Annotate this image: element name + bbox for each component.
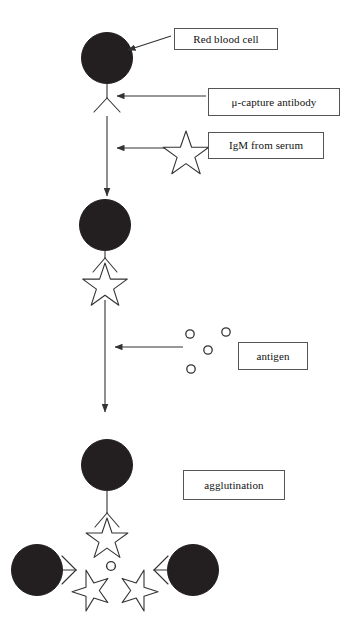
- capture-antibody: [154, 556, 168, 584]
- label-igm-from-serum: IgM from serum: [208, 132, 324, 159]
- red-blood-cell: [80, 200, 131, 251]
- figure-root: Red blood cell μ-capture antibody IgM fr…: [0, 0, 352, 621]
- red-blood-cell: [12, 545, 63, 596]
- stage-2-group: [80, 200, 184, 413]
- label-agglutination: agglutination: [183, 470, 285, 500]
- red-blood-cell: [82, 33, 133, 84]
- label-capture-antibody: μ-capture antibody: [208, 88, 340, 116]
- antigen-pool: [186, 328, 230, 373]
- label-igm-from-serum-text: IgM from serum: [229, 139, 303, 151]
- label-red-blood-cell-text: Red blood cell: [193, 33, 259, 45]
- igm-star-left: [72, 570, 108, 611]
- label-antigen-text: antigen: [256, 350, 289, 362]
- red-blood-cell: [82, 440, 133, 491]
- label-agglutination-text: agglutination: [204, 479, 263, 491]
- antigen-particle-crosslink: [107, 562, 116, 571]
- igm-star-bound: [83, 263, 128, 305]
- label-antigen: antigen: [238, 342, 308, 370]
- igm-star-right: [122, 570, 158, 611]
- antigen-particle: [186, 330, 194, 338]
- pointer-arrow-red-blood-cell: [128, 36, 171, 50]
- label-capture-antibody-text: μ-capture antibody: [232, 96, 317, 108]
- red-blood-cell: [168, 545, 219, 596]
- capture-antibody: [94, 84, 120, 112]
- igm-star-legend: [163, 131, 209, 174]
- antigen-particle: [187, 365, 195, 373]
- antigen-particle: [204, 346, 212, 354]
- stage-1-group: [82, 33, 171, 197]
- capture-antibody: [62, 556, 76, 584]
- label-red-blood-cell: Red blood cell: [174, 28, 278, 50]
- antigen-particle: [222, 328, 230, 336]
- igm-star-top: [86, 518, 128, 557]
- stage-3-agglutination-group: [12, 440, 219, 612]
